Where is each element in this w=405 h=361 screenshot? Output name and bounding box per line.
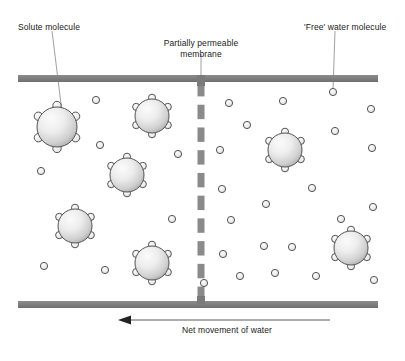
solute-molecule-label: Solute molecule bbox=[18, 22, 80, 33]
solute-molecule bbox=[266, 128, 305, 172]
water-molecule-body bbox=[101, 266, 108, 273]
solute-molecule-body bbox=[334, 231, 368, 265]
solute-molecule bbox=[332, 226, 371, 270]
water-molecule-body bbox=[92, 96, 99, 103]
membrane-dash bbox=[198, 173, 205, 187]
water-molecule-body bbox=[96, 141, 103, 148]
solute-molecule-body bbox=[37, 107, 77, 147]
water-molecule-body bbox=[218, 185, 225, 192]
water-molecule-body bbox=[368, 144, 375, 151]
free-water-molecule bbox=[200, 279, 207, 286]
free-water-molecule bbox=[40, 262, 47, 269]
free-water-molecule bbox=[218, 185, 225, 192]
solute-molecule-body bbox=[135, 99, 169, 133]
free-water-molecule bbox=[168, 215, 175, 222]
water-molecule-body bbox=[337, 215, 344, 222]
solute-molecule-body bbox=[135, 246, 169, 280]
solute-molecule bbox=[133, 241, 172, 285]
free-water-molecule bbox=[101, 266, 108, 273]
water-molecule-body bbox=[227, 216, 234, 223]
free-water-molecule bbox=[368, 144, 375, 151]
solute-molecule bbox=[108, 153, 147, 197]
solute-molecule bbox=[133, 94, 172, 138]
water-molecule-body bbox=[174, 150, 181, 157]
free-water-molecule bbox=[37, 167, 44, 174]
membrane-dash bbox=[198, 241, 205, 255]
solute-molecules-group bbox=[34, 94, 370, 285]
water-molecule-body bbox=[271, 269, 278, 276]
free-water-molecule-label: 'Free' water molecule bbox=[304, 22, 386, 33]
free-water-molecule bbox=[225, 99, 232, 106]
free-water-molecule bbox=[337, 215, 344, 222]
free-water-molecule bbox=[174, 150, 181, 157]
water-molecule-body bbox=[168, 215, 175, 222]
water-molecule-body bbox=[200, 279, 207, 286]
water-molecule-body bbox=[225, 99, 232, 106]
water-molecule-body bbox=[279, 97, 286, 104]
arrow-head bbox=[118, 315, 131, 324]
membrane-dash bbox=[198, 264, 205, 278]
water-molecule-body bbox=[288, 243, 295, 250]
membrane-label-line2: membrane bbox=[180, 49, 221, 59]
free-water-molecule bbox=[236, 272, 243, 279]
membrane-dash bbox=[198, 196, 205, 210]
solute-molecule-body bbox=[110, 158, 144, 192]
water-molecule-body bbox=[37, 167, 44, 174]
water-molecule-body bbox=[262, 200, 269, 207]
membrane-dash bbox=[198, 105, 205, 119]
water-molecule-body bbox=[236, 272, 243, 279]
water-molecule-body bbox=[243, 121, 250, 128]
water-molecule-body bbox=[370, 276, 377, 283]
partially-permeable-membrane-label: Partially permeable membrane bbox=[151, 38, 251, 60]
free-water-molecule bbox=[370, 276, 377, 283]
free-water-molecule bbox=[260, 242, 267, 249]
solute-leader bbox=[52, 31, 62, 112]
free-water-molecule bbox=[219, 250, 226, 257]
membrane-label-line1: Partially permeable bbox=[164, 38, 239, 48]
solute-molecule bbox=[34, 101, 80, 152]
free-water-molecule bbox=[227, 216, 234, 223]
solute-molecule-body bbox=[58, 209, 92, 243]
partially-permeable-membrane bbox=[197, 75, 205, 304]
free-water-molecule bbox=[279, 97, 286, 104]
free-water-molecules-group bbox=[37, 88, 377, 286]
free-water-molecule bbox=[369, 203, 376, 210]
free-water-molecule bbox=[331, 127, 338, 134]
membrane-dash bbox=[198, 218, 205, 232]
net-movement-of-water-label: Net movement of water bbox=[152, 325, 302, 336]
water-molecule-body bbox=[40, 262, 47, 269]
net-movement-arrow bbox=[118, 315, 330, 324]
water-molecule-body bbox=[219, 250, 226, 257]
osmosis-diagram: Solute molecule Partially permeable memb… bbox=[0, 0, 405, 361]
free-water-molecule bbox=[312, 272, 319, 279]
free-water-molecule bbox=[271, 269, 278, 276]
free-water-molecule bbox=[216, 146, 223, 153]
membrane-dash bbox=[198, 150, 205, 164]
membrane-top-joint bbox=[197, 75, 205, 86]
free-water-molecule bbox=[367, 105, 374, 112]
free-water-molecule bbox=[262, 200, 269, 207]
free-water-molecule bbox=[92, 96, 99, 103]
water-molecule-body bbox=[216, 146, 223, 153]
water-molecule-body bbox=[369, 203, 376, 210]
water-molecule-body bbox=[331, 127, 338, 134]
membrane-dash bbox=[198, 127, 205, 141]
membrane-bottom-joint bbox=[197, 296, 205, 304]
solute-molecule bbox=[56, 204, 95, 248]
free-water-molecule bbox=[308, 184, 315, 191]
water-molecule-body bbox=[308, 184, 315, 191]
water-molecule-body bbox=[260, 242, 267, 249]
free-water-molecule bbox=[96, 141, 103, 148]
water-molecule-body bbox=[312, 272, 319, 279]
solute-molecule-body bbox=[268, 133, 302, 167]
water-molecule-body bbox=[329, 88, 336, 95]
free-water-molecule bbox=[288, 243, 295, 250]
free-water-molecule bbox=[329, 88, 336, 95]
water-molecule-body bbox=[367, 105, 374, 112]
free-water-molecule bbox=[243, 121, 250, 128]
